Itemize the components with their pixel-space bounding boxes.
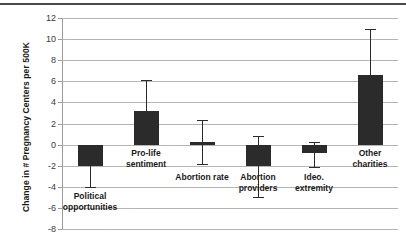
error-bar-line <box>146 80 147 138</box>
error-bar-line <box>90 145 91 187</box>
chart-figure: Change in # Pregnancy Centers per 500K 1… <box>0 0 406 242</box>
gridline <box>62 18 398 19</box>
y-tick-mark <box>58 18 62 19</box>
error-bar-cap-lower <box>253 197 264 198</box>
category-label: Abortion rate <box>175 172 228 183</box>
category-label-line: Abortion <box>239 172 278 183</box>
error-bar-line <box>370 29 371 122</box>
category-label-line: Ideo. <box>295 172 333 183</box>
y-axis-title: Change in # Pregnancy Centers per 500K <box>21 27 31 227</box>
y-tick-mark <box>58 187 62 188</box>
y-tick-mark <box>58 208 62 209</box>
y-tick-mark <box>58 39 62 40</box>
category-label: Pro-lifesentiment <box>126 148 166 170</box>
y-tick-mark <box>58 145 62 146</box>
error-bar-cap-lower <box>85 187 96 188</box>
category-label: Othercharities <box>353 148 388 170</box>
category-label-line: charities <box>353 159 388 170</box>
error-bar-cap-upper <box>309 142 320 143</box>
y-tick-mark <box>58 229 62 230</box>
gridline <box>62 166 398 167</box>
gridline <box>62 187 398 188</box>
y-tick-label: 12 <box>46 13 56 23</box>
y-tick-mark <box>58 60 62 61</box>
y-tick-mark <box>58 81 62 82</box>
gridline <box>62 81 398 82</box>
gridline <box>62 39 398 40</box>
y-tick-label: 4 <box>51 97 56 107</box>
error-bar-cap-upper <box>85 145 96 146</box>
y-tick-label: -2 <box>48 161 56 171</box>
y-tick-label: 6 <box>51 76 56 86</box>
category-label-line: providers <box>239 183 278 194</box>
gridline <box>62 145 398 146</box>
y-tick-label: -6 <box>48 203 56 213</box>
y-tick-label: 2 <box>51 119 56 129</box>
category-label-line: sentiment <box>126 159 166 170</box>
error-bar-line <box>314 142 315 166</box>
category-label: Ideo.extremity <box>295 172 333 194</box>
gridline <box>62 124 398 125</box>
y-tick-label: 0 <box>51 140 56 150</box>
category-label-line: Other <box>353 148 388 159</box>
error-bar-cap-upper <box>197 120 208 121</box>
y-tick-mark <box>58 166 62 167</box>
category-label-line: Pro-life <box>126 148 166 159</box>
y-tick-mark <box>58 102 62 103</box>
category-label: Politicalopportunities <box>63 191 117 213</box>
error-bar-cap-lower <box>141 138 152 139</box>
gridline <box>62 102 398 103</box>
y-tick-label: -4 <box>48 182 56 192</box>
category-label: Abortionproviders <box>239 172 278 194</box>
y-tick-label: 10 <box>46 34 56 44</box>
error-bar-cap-upper <box>141 80 152 81</box>
error-bar-line <box>202 120 203 163</box>
error-bar-cap-lower <box>365 121 376 122</box>
plot-area: 121086420-2-4-6-8 Politicalopportunities… <box>62 18 398 229</box>
error-bar-cap-upper <box>365 29 376 30</box>
y-tick-label: 8 <box>51 55 56 65</box>
y-tick-label: -8 <box>48 224 56 234</box>
figure-top-border <box>0 3 406 5</box>
error-bar-cap-lower <box>309 167 320 168</box>
y-tick-mark <box>58 124 62 125</box>
category-label-line: Abortion rate <box>175 172 228 183</box>
gridline <box>62 60 398 61</box>
category-label-line: opportunities <box>63 202 117 213</box>
category-label-line: extremity <box>295 183 333 194</box>
category-label-line: Political <box>63 191 117 202</box>
gridline <box>62 229 398 230</box>
error-bar-cap-lower <box>197 164 208 165</box>
error-bar-cap-upper <box>253 136 264 137</box>
